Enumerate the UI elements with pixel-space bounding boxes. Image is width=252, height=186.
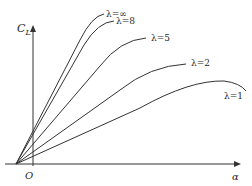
lift-curve-diagram: CL O α λ=∞ λ=8 λ=5 λ=2 λ=1 [0, 0, 252, 186]
label-lambda-2: λ=2 [191, 58, 210, 68]
y-axis-arrow-icon [30, 25, 36, 32]
curves [16, 14, 246, 164]
curve-lambda-1 [16, 81, 246, 164]
curve-lambda-8 [16, 21, 114, 164]
label-lambda-5: λ=5 [151, 33, 170, 43]
y-axis-label: CL [17, 22, 31, 37]
origin-label: O [25, 170, 33, 181]
label-lambda-1: λ=1 [224, 91, 243, 101]
axes [5, 25, 241, 167]
curve-lambda-5 [16, 38, 146, 164]
label-lambda-8: λ=8 [116, 16, 135, 26]
x-axis-arrow-icon [234, 161, 241, 167]
x-axis-label: α [232, 171, 239, 182]
